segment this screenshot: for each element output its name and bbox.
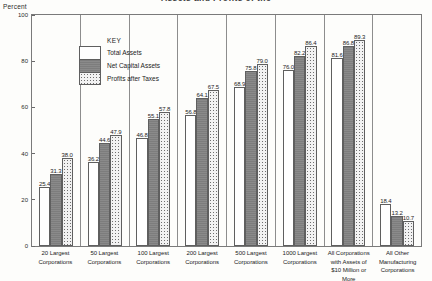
x-axis-label-line: Corporations (130, 258, 177, 267)
bar[interactable]: 86.8 (343, 46, 354, 247)
bar[interactable]: 82.2 (294, 56, 305, 246)
bar[interactable]: 75.8 (245, 71, 256, 246)
bar-value-label: 57.8 (159, 106, 170, 112)
y-axis-tick: 60 (21, 104, 32, 110)
bar-group-bars: 76.082.286.4 (282, 15, 316, 246)
y-axis-tick: 40 (21, 151, 32, 157)
bar[interactable]: 55.1 (148, 119, 159, 246)
x-axis-label-line: Corporations (32, 258, 79, 267)
bar[interactable]: 89.3 (354, 40, 365, 246)
bar[interactable]: 57.8 (159, 112, 170, 246)
bar-value-label: 47.9 (110, 129, 121, 135)
legend-title: KEY (107, 37, 201, 44)
bar-value-label: 38.0 (62, 152, 73, 158)
bar[interactable]: 38.0 (62, 158, 73, 246)
bar[interactable]: 31.3 (50, 174, 61, 246)
bar-group: 81.686.889.3 (325, 15, 374, 246)
bar-group-bars: 25.431.338.0 (39, 15, 73, 246)
x-axis-label-line: Corporations (179, 258, 226, 267)
x-axis-label-line: Corporations (228, 258, 275, 267)
x-axis-label: All OtherManufacturingCorporations (373, 249, 422, 281)
bar-value-label: 75.8 (245, 65, 256, 71)
bar-value-label: 86.8 (343, 40, 354, 46)
bar-value-label: 56.8 (185, 109, 196, 115)
x-axis-label-line: 50 Largest (81, 249, 128, 258)
chart-title: Assets and Profits of the (0, 0, 432, 3)
x-axis-label-line: $10 Million or More (325, 266, 372, 281)
bar-value-label: 79.0 (257, 58, 268, 64)
bar-value-label: 46.8 (136, 132, 147, 138)
bar[interactable]: 64.1 (196, 98, 207, 246)
x-axis-label: 50 LargestCorporations (80, 249, 129, 281)
bar-chart: Assets and Profits of the Percent 100806… (0, 0, 432, 281)
bar[interactable]: 46.8 (136, 138, 147, 246)
bar-value-label: 55.1 (148, 113, 159, 119)
bar-value-label: 81.6 (331, 52, 342, 58)
bar[interactable]: 47.9 (110, 135, 121, 246)
bar[interactable]: 18.4 (380, 204, 391, 247)
bar-group: 76.082.286.4 (276, 15, 325, 246)
legend-rows: Total AssetsNet Capital AssetsProfits af… (71, 46, 201, 85)
y-axis-tick: 80 (21, 58, 32, 64)
bar-value-label: 36.2 (88, 156, 99, 162)
bar[interactable]: 25.4 (39, 187, 50, 246)
bar-value-label: 68.9 (234, 81, 245, 87)
bar-value-label: 44.6 (99, 137, 110, 143)
x-axis-label-line: 1000 Largest (276, 249, 323, 258)
legend-label: Profits after Taxes (107, 75, 159, 82)
legend: KEY Total AssetsNet Capital AssetsProfit… (71, 37, 201, 85)
legend-swatch (79, 59, 101, 72)
bar[interactable]: 10.7 (403, 221, 414, 246)
legend-swatch (79, 72, 101, 85)
bar-value-label: 89.3 (354, 34, 365, 40)
plot-area: 100806040200 25.431.338.036.244.647.946.… (31, 14, 422, 247)
bar[interactable]: 44.6 (99, 143, 110, 246)
bar-group-bars: 68.975.879.0 (234, 15, 268, 246)
legend-item[interactable]: Profits after Taxes (71, 72, 201, 85)
bar[interactable]: 79.0 (257, 64, 268, 246)
bar-group-bars: 81.686.889.3 (331, 15, 365, 246)
legend-item[interactable]: Total Assets (71, 46, 201, 59)
bar[interactable]: 56.8 (185, 115, 196, 246)
y-axis-tick: 20 (21, 197, 32, 203)
x-axis-label-line: All Corporations (325, 249, 372, 258)
bar-value-label: 82.2 (294, 50, 305, 56)
bar[interactable]: 81.6 (331, 58, 342, 246)
y-axis-tick: 100 (18, 12, 32, 18)
bar[interactable]: 68.9 (234, 87, 245, 246)
x-axis-label-line: Corporations (374, 266, 421, 275)
x-axis-labels: 20 LargestCorporations50 LargestCorporat… (31, 249, 422, 281)
bar-value-label: 64.1 (196, 92, 207, 98)
x-axis-label: All Corporationswith Assets of$10 Millio… (324, 249, 373, 281)
x-axis-label: 1000 LargestCorporations (275, 249, 324, 281)
legend-label: Net Capital Assets (107, 62, 160, 69)
bar-value-label: 10.7 (403, 215, 414, 221)
bar-value-label: 13.2 (391, 210, 402, 216)
legend-label: Total Assets (107, 49, 142, 56)
bar-value-label: 25.4 (39, 181, 50, 187)
bar[interactable]: 67.5 (208, 90, 219, 246)
bar-group: 68.975.879.0 (227, 15, 276, 246)
x-axis-label: 200 LargestCorporations (178, 249, 227, 281)
bar-group-bars: 18.413.210.7 (380, 15, 414, 246)
legend-swatch (79, 46, 101, 59)
bar[interactable]: 86.4 (305, 46, 316, 246)
bar-value-label: 86.4 (305, 40, 316, 46)
legend-item[interactable]: Net Capital Assets (71, 59, 201, 72)
bar[interactable]: 76.0 (283, 70, 294, 246)
bar-value-label: 18.4 (380, 198, 391, 204)
bar-value-label: 67.5 (208, 84, 219, 90)
x-axis-label-line: Corporations (81, 258, 128, 267)
x-axis-label-line: Manufacturing (374, 258, 421, 267)
x-axis-label: 20 LargestCorporations (31, 249, 80, 281)
y-axis-label: Percent (3, 3, 27, 10)
bar-value-label: 31.3 (50, 168, 61, 174)
x-axis-label-line: Corporations (276, 258, 323, 267)
x-axis-label: 500 LargestCorporations (227, 249, 276, 281)
x-axis-label-line: 500 Largest (228, 249, 275, 258)
x-axis-label-line: 100 Largest (130, 249, 177, 258)
bar[interactable]: 13.2 (391, 216, 402, 246)
bar-group: 18.413.210.7 (373, 15, 421, 246)
bar[interactable]: 36.2 (88, 162, 99, 246)
x-axis-label-line: with Assets of (325, 258, 372, 267)
